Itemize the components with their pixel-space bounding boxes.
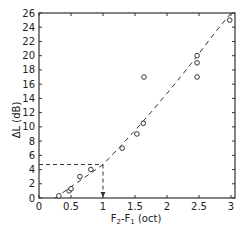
y-tick-label: 26 [22,8,35,19]
x-axis-ticks: 00.511.522.53 [36,13,234,212]
data-point [195,75,200,80]
y-tick-label: 18 [22,64,35,75]
x-tick-label: 3 [228,201,234,212]
arrow-down-icon [101,192,106,197]
x-tick-label: 2.5 [191,201,207,212]
data-point [57,194,62,199]
data-point [227,18,232,23]
fit-curve [55,13,231,198]
x-tick-label: 1 [100,201,106,212]
y-tick-label: 10 [22,121,35,132]
y-axis-label: ΔL (dB) [11,102,22,139]
data-point [69,186,74,191]
y-tick-label: 22 [22,36,35,47]
data-point [195,61,200,66]
y-axis-ticks: 02468101214161820222426 [22,8,235,204]
data-point [120,146,125,151]
data-point [142,75,147,80]
plot-frame [39,13,235,198]
y-tick-label: 0 [29,193,35,204]
data-point [78,174,83,179]
scatter-chart: 02468101214161820222426 00.511.522.53 ΔL… [0,0,248,232]
x-tick-label: 0.5 [63,201,79,212]
y-tick-label: 2 [29,178,35,189]
x-tick-label: 2 [164,201,170,212]
x-axis-label: F2-F1 (oct) [111,213,162,226]
y-tick-label: 24 [22,22,35,33]
data-point [195,53,200,58]
data-point [135,132,140,137]
y-tick-label: 12 [22,107,35,118]
data-point [89,167,94,172]
y-tick-label: 20 [22,50,35,61]
x-tick-label: 0 [36,201,42,212]
y-tick-label: 6 [29,150,35,161]
data-point [141,121,146,126]
y-tick-label: 16 [22,79,35,90]
y-tick-label: 8 [29,136,35,147]
y-tick-label: 4 [29,164,35,175]
y-tick-label: 14 [22,93,35,104]
x-tick-label: 1.5 [127,201,143,212]
